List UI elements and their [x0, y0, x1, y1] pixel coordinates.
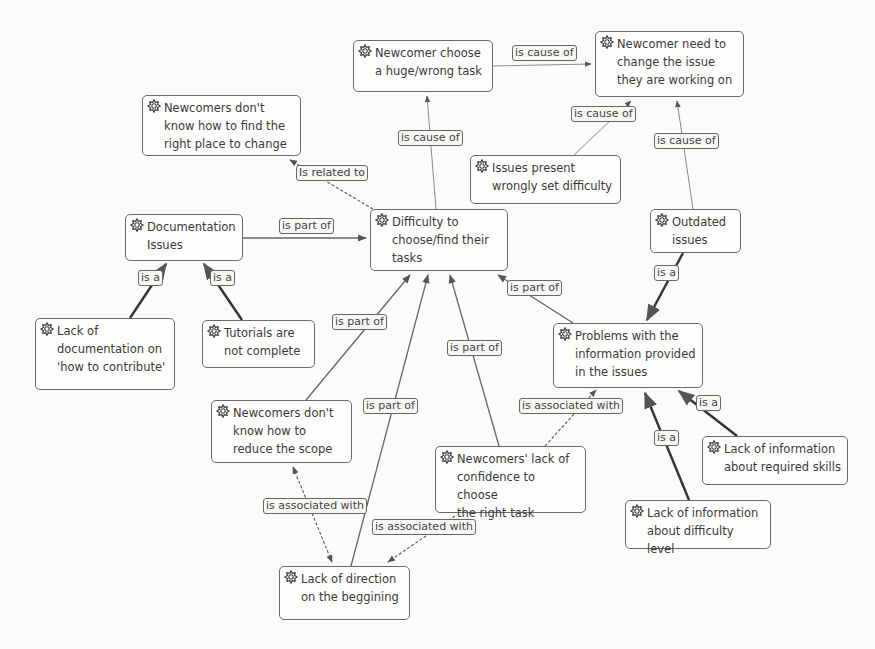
concept-node[interactable]: Newcomers' lack of confidence to choose …: [435, 446, 586, 513]
concept-node[interactable]: Difficulty to choose/find their tasks: [370, 209, 508, 271]
concept-node[interactable]: Newcomer need to change the issue they a…: [595, 31, 744, 97]
edge-n14-n10[interactable]: [645, 393, 689, 500]
gear-star-icon: [600, 35, 614, 49]
concept-node-text: Lack of information about difficulty lev…: [647, 504, 764, 558]
concept-node-text: Newcomer choose a huge/wrong task: [375, 44, 486, 80]
concept-node[interactable]: Tutorials are not complete: [202, 320, 315, 368]
gear-star-icon: [147, 99, 161, 113]
edge-label[interactable]: is cause of: [512, 45, 577, 61]
concept-node[interactable]: Documentation Issues: [125, 214, 243, 261]
gear-star-icon: [375, 213, 389, 227]
edge-label[interactable]: is associated with: [519, 398, 623, 414]
edge-label[interactable]: is a: [654, 265, 679, 281]
edge-label[interactable]: is part of: [279, 218, 334, 234]
gear-star-icon: [558, 327, 572, 341]
concept-map-canvas: Newcomer choose a huge/wrong taskNewcome…: [0, 0, 875, 649]
edge-label[interactable]: is a: [210, 270, 235, 286]
concept-node-text: Outdated issues: [672, 213, 734, 249]
gear-star-icon: [40, 322, 54, 336]
edge-n7-n10[interactable]: [647, 253, 683, 320]
concept-node[interactable]: Outdated issues: [650, 209, 741, 253]
edge-label[interactable]: is a: [696, 395, 721, 411]
edge-label[interactable]: is cause of: [571, 106, 636, 122]
edge-label[interactable]: is part of: [363, 398, 418, 414]
edge-label[interactable]: is associated with: [263, 498, 367, 514]
concept-node[interactable]: Issues present wrongly set difficulty: [470, 155, 621, 204]
concept-node[interactable]: Newcomer choose a huge/wrong task: [353, 40, 493, 92]
concept-node-text: Newcomers don't know how to reduce the s…: [233, 404, 345, 458]
gear-star-icon: [207, 324, 221, 338]
concept-node-text: Lack of direction on the beggining: [301, 570, 403, 606]
edge-n11-n15[interactable]: [293, 467, 332, 562]
concept-node-text: Newcomer need to change the issue they a…: [617, 35, 737, 89]
gear-star-icon: [655, 213, 669, 227]
concept-node[interactable]: Newcomers don't know how to reduce the s…: [211, 400, 352, 463]
edge-n6-n1[interactable]: [427, 96, 436, 209]
gear-star-icon: [284, 570, 298, 584]
edge-n7-n2[interactable]: [677, 101, 693, 209]
concept-node-text: Lack of information about required skill…: [724, 440, 841, 476]
concept-node-text: Problems with the information provided i…: [575, 327, 696, 381]
edge-label[interactable]: is cause of: [398, 130, 463, 146]
edge-n1-n2[interactable]: [493, 64, 591, 66]
concept-node-text: Tutorials are not complete: [224, 324, 308, 360]
gear-star-icon: [440, 450, 454, 464]
concept-node[interactable]: Newcomers don't know how to find the rig…: [142, 95, 301, 156]
edge-n11-n6[interactable]: [306, 275, 410, 400]
edge-label[interactable]: is part of: [332, 314, 387, 330]
edge-label[interactable]: is cause of: [654, 133, 719, 149]
concept-node[interactable]: Lack of information about difficulty lev…: [625, 500, 771, 549]
edge-label[interactable]: is a: [654, 430, 679, 446]
edge-label[interactable]: Is related to: [296, 165, 368, 181]
gear-star-icon: [358, 44, 372, 58]
edge-label[interactable]: is associated with: [372, 519, 476, 535]
concept-node-text: Issues present wrongly set difficulty: [492, 159, 614, 195]
edge-label[interactable]: is part of: [507, 280, 562, 296]
concept-node[interactable]: Problems with the information provided i…: [553, 323, 703, 388]
concept-node[interactable]: Lack of documentation on 'how to contrib…: [35, 318, 175, 390]
edge-label[interactable]: is part of: [447, 340, 502, 356]
gear-star-icon: [707, 440, 721, 454]
gear-star-icon: [630, 504, 644, 518]
concept-node-text: Documentation Issues: [147, 218, 236, 254]
concept-node-text: Newcomers don't know how to find the rig…: [164, 99, 294, 153]
concept-node[interactable]: Lack of direction on the beggining: [279, 566, 410, 620]
concept-node-text: Newcomers' lack of confidence to choose …: [457, 450, 579, 522]
gear-star-icon: [216, 404, 230, 418]
concept-node[interactable]: Lack of information about required skill…: [702, 436, 848, 485]
gear-star-icon: [130, 218, 144, 232]
edge-label[interactable]: is a: [138, 270, 163, 286]
concept-node-text: Difficulty to choose/find their tasks: [392, 213, 501, 267]
edge-n12-n6[interactable]: [450, 275, 499, 446]
gear-star-icon: [475, 159, 489, 173]
concept-node-text: Lack of documentation on 'how to contrib…: [57, 322, 168, 376]
